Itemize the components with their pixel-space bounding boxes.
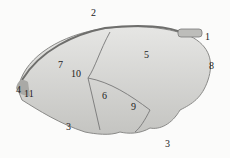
organ-illustration [0, 0, 230, 158]
label-9: 9 [131, 102, 136, 112]
label-10: 10 [71, 69, 81, 79]
tube [178, 29, 202, 37]
label-3a: 3 [66, 122, 71, 132]
label-11: 11 [24, 89, 34, 99]
label-2: 2 [91, 8, 96, 18]
label-5: 5 [144, 50, 149, 60]
label-6: 6 [102, 91, 107, 101]
label-4: 4 [16, 85, 21, 95]
label-3b: 3 [165, 139, 170, 149]
label-7: 7 [58, 60, 63, 70]
label-1: 1 [205, 32, 210, 42]
organ-body [18, 27, 211, 135]
label-8: 8 [209, 61, 214, 71]
